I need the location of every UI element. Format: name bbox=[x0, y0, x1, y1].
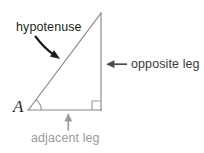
triangle-diagram-figure: hypotenuse opposite leg adjacent leg A bbox=[0, 0, 204, 153]
vertex-a-label: A bbox=[13, 98, 23, 115]
hypotenuse-label: hypotenuse bbox=[16, 21, 82, 34]
right-angle-marker bbox=[92, 101, 101, 110]
opposite-leg-arrow-icon bbox=[107, 61, 128, 68]
opposite-leg-label: opposite leg bbox=[131, 58, 200, 71]
angle-arc bbox=[36, 100, 41, 110]
adjacent-leg-arrow-icon bbox=[65, 114, 72, 131]
hypotenuse-arrow-icon bbox=[36, 37, 60, 59]
adjacent-leg-label: adjacent leg bbox=[31, 132, 100, 145]
